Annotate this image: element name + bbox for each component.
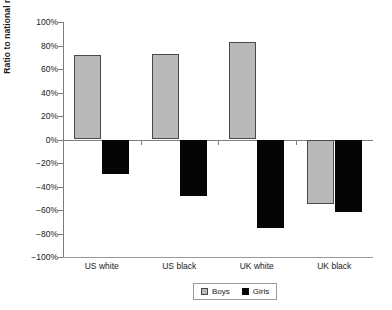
x-axis-category-label: UK black [296,261,374,271]
y-axis-tick [58,140,63,141]
x-axis-category-label: US white [63,261,141,271]
y-axis-tick [58,22,63,23]
y-axis-tick-label: 100% [36,18,58,27]
bar-uk-white-girls [257,140,284,228]
bar-uk-black-boys [307,140,334,205]
bar-us-black-girls [180,140,207,196]
y-axis-tick-label: 20% [41,112,58,121]
y-axis-tick-label: −60% [36,206,58,215]
y-axis-tick [58,46,63,47]
y-axis-tick [58,69,63,70]
x-axis-tick [141,140,142,145]
x-axis-line [63,257,373,258]
y-axis-tick-label: 40% [41,88,58,97]
x-axis-category-labels: US whiteUS blackUK whiteUK black [63,261,373,275]
x-axis-tick [218,140,219,145]
y-axis-tick-labels: 100%80%60%40%20%0%−20%−40%−60%−80%−100% [18,22,58,257]
y-axis-tick [58,163,63,164]
y-axis-tick-label: 80% [41,41,58,50]
x-axis-tick [296,140,297,145]
bar-chart: Ratio to national mean 100%80%60%40%20%0… [0,0,392,310]
legend-label: Boys [212,287,230,296]
bar-uk-white-boys [229,42,256,140]
y-axis-tick [58,210,63,211]
y-axis-tick [58,187,63,188]
y-axis-tick-label: −20% [36,159,58,168]
x-axis-category-label: US black [141,261,219,271]
y-axis-tick-label: −80% [36,229,58,238]
y-axis-tick-label: 0% [46,135,58,144]
chart-legend: BoysGirls [193,283,277,300]
y-axis-tick [58,234,63,235]
bar-uk-black-girls [335,140,362,213]
y-axis-tick [58,93,63,94]
legend-swatch-icon [242,288,249,295]
y-axis-tick-label: −40% [36,182,58,191]
bar-us-white-boys [74,55,101,140]
y-axis-tick-label: −100% [31,253,58,262]
y-axis-title: Ratio to national mean [2,0,12,92]
legend-label: Girls [253,287,269,296]
legend-swatch-icon [201,288,208,295]
bar-us-white-girls [102,140,129,174]
y-axis-tick-label: 60% [41,65,58,74]
x-axis-category-label: UK white [218,261,296,271]
y-axis-tick [58,116,63,117]
legend-item-girls: Girls [242,287,269,296]
plot-area [63,22,373,257]
y-axis-tick [58,257,63,258]
legend-item-boys: Boys [201,287,230,296]
bar-us-black-boys [152,54,179,140]
